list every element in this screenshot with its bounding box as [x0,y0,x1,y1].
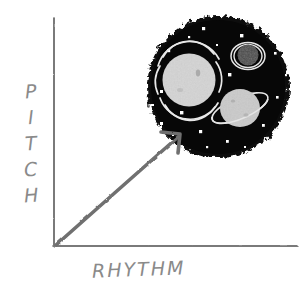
y-axis-line [54,19,55,246]
saturn-body [220,89,260,127]
star [268,142,270,144]
space-illustration [147,16,289,158]
saturn-crater [231,99,235,102]
y-axis-label-char: P [24,78,38,105]
diagram-canvas: P I T C H RHYTHM [0,0,308,290]
star [276,96,279,99]
star [274,52,277,55]
trend-arrow [56,132,180,245]
x-axis-label: RHYTHM [92,256,186,281]
star [160,90,163,93]
planet-large-crater [177,88,183,92]
planet-large-body [163,54,216,107]
y-axis-label-char: I [27,104,35,130]
star [180,111,183,114]
arrow-shaft [56,137,178,245]
star [202,27,205,30]
star [244,146,246,148]
star [262,124,265,127]
star [152,104,154,106]
star [228,73,231,76]
star [160,122,163,125]
star [188,36,190,38]
y-axis-label: P I T C H [14,78,48,208]
y-axis-label-char: T [24,130,38,157]
star [226,140,229,143]
star [284,116,286,118]
star [256,20,258,22]
y-axis-label-char: C [23,156,39,183]
y-axis-label-char: H [23,182,40,209]
star [216,44,218,46]
saturn-crater [243,113,248,117]
star [240,34,243,37]
planet-large-crater [196,70,200,77]
star [206,146,208,148]
dark-planet-body [238,45,259,66]
star [199,130,202,133]
